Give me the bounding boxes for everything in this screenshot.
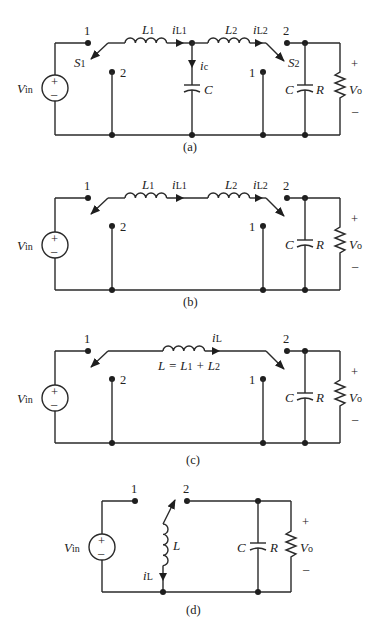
svg-text:+: + [302, 515, 309, 529]
svg-text:2: 2 [283, 179, 289, 193]
switch [163, 500, 175, 524]
panel-caption: (b) [183, 295, 198, 309]
vo-label: Vo [349, 390, 362, 405]
svg-text:2: 2 [283, 332, 289, 346]
svg-text:C: C [285, 237, 294, 252]
resistor [335, 351, 345, 443]
svg-text:–: – [97, 546, 105, 560]
il1-label: iL1 [172, 22, 187, 37]
svg-text:+: + [351, 365, 358, 379]
minus-sign: – [351, 104, 359, 118]
inductor-l1 [125, 38, 192, 47]
vin-label: Vin [17, 81, 33, 96]
resistor [335, 43, 345, 135]
vo-label: Vo [349, 237, 362, 252]
svg-text:–: – [351, 412, 359, 426]
il2-label: iL2 [253, 22, 268, 37]
inductor-l2 [192, 38, 266, 47]
vo-label: Vo [300, 540, 313, 555]
s2-label: S2 [288, 55, 300, 70]
vin-label: Vin [17, 391, 33, 406]
node-label: 2 [120, 66, 126, 80]
svg-text:–: – [302, 562, 310, 576]
il-label: iL [143, 568, 153, 583]
panel-c: + – Vin 1 2 iL L = L1 + L2 1 2 C R + Vo … [17, 330, 362, 467]
il2-label: iL2 [253, 177, 268, 192]
inductor-l [163, 346, 205, 351]
panel-caption: (d) [186, 603, 201, 617]
svg-text:+: + [351, 212, 358, 226]
voltage-source: + – [42, 43, 68, 135]
l1-label: L1 [141, 22, 154, 37]
vin-label: Vin [64, 540, 80, 555]
resistor [286, 501, 296, 592]
panel-a: + – Vin 1 S1 2 L1 iL1 [17, 22, 362, 154]
panel-caption: (a) [183, 140, 197, 154]
l2-label: L2 [224, 22, 237, 37]
l1-label: L1 [141, 177, 154, 192]
switch-s1 [91, 351, 108, 367]
svg-text:R: R [315, 390, 324, 405]
capacitor-out [297, 43, 313, 135]
svg-text:1: 1 [249, 220, 255, 234]
svg-text:1: 1 [249, 373, 255, 387]
panel-caption: (c) [186, 453, 200, 467]
svg-text:1: 1 [84, 332, 90, 346]
svg-text:C: C [285, 390, 294, 405]
panel-b: + – Vin 1 2 L1 iL1 L2 iL2 1 2 C R [17, 177, 362, 309]
ic-label: ic [200, 58, 209, 73]
svg-text:C: C [237, 540, 246, 555]
r-label: R [315, 82, 324, 97]
svg-text:R: R [315, 237, 324, 252]
svg-text:R: R [269, 540, 278, 555]
inductor-l2 [208, 193, 250, 198]
l-equation-label: L = L1 + L2 [157, 358, 220, 373]
switch-s1 [91, 198, 108, 214]
inductor-l1 [125, 193, 167, 198]
switch-s2 [266, 351, 284, 369]
s1-label: S1 [74, 55, 86, 70]
node-label: 1 [84, 24, 90, 38]
c-label: C [204, 82, 213, 97]
panel-d: + – Vin 1 2 L iL C R + Vo – (d) [64, 482, 313, 617]
inductor-l [163, 524, 168, 566]
node-label: 2 [283, 24, 289, 38]
capacitor-mid [184, 43, 200, 135]
svg-text:–: – [351, 259, 359, 273]
svg-text:2: 2 [183, 482, 189, 496]
il-label: iL [212, 330, 222, 345]
switch-node [85, 40, 91, 46]
svg-text:1: 1 [131, 482, 137, 496]
vo-label: Vo [349, 82, 362, 97]
il1-label: iL1 [172, 177, 187, 192]
plus-sign: + [351, 57, 358, 71]
svg-text:2: 2 [120, 373, 126, 387]
switch-s2 [266, 198, 284, 216]
svg-text:1: 1 [84, 179, 90, 193]
resistor [335, 198, 345, 290]
l2-label: L2 [224, 177, 237, 192]
vin-label: Vin [17, 238, 33, 253]
l-label: L [172, 538, 180, 553]
node-label: 1 [249, 66, 255, 80]
svg-text:–: – [50, 397, 58, 411]
minus-sign: – [50, 87, 58, 101]
switch-s2 [266, 43, 284, 61]
svg-text:–: – [50, 244, 58, 258]
switch-s1 [91, 43, 125, 59]
svg-text:2: 2 [120, 220, 126, 234]
c-label: C [285, 82, 294, 97]
circuit-figure: + – Vin 1 S1 2 L1 iL1 [0, 0, 379, 633]
